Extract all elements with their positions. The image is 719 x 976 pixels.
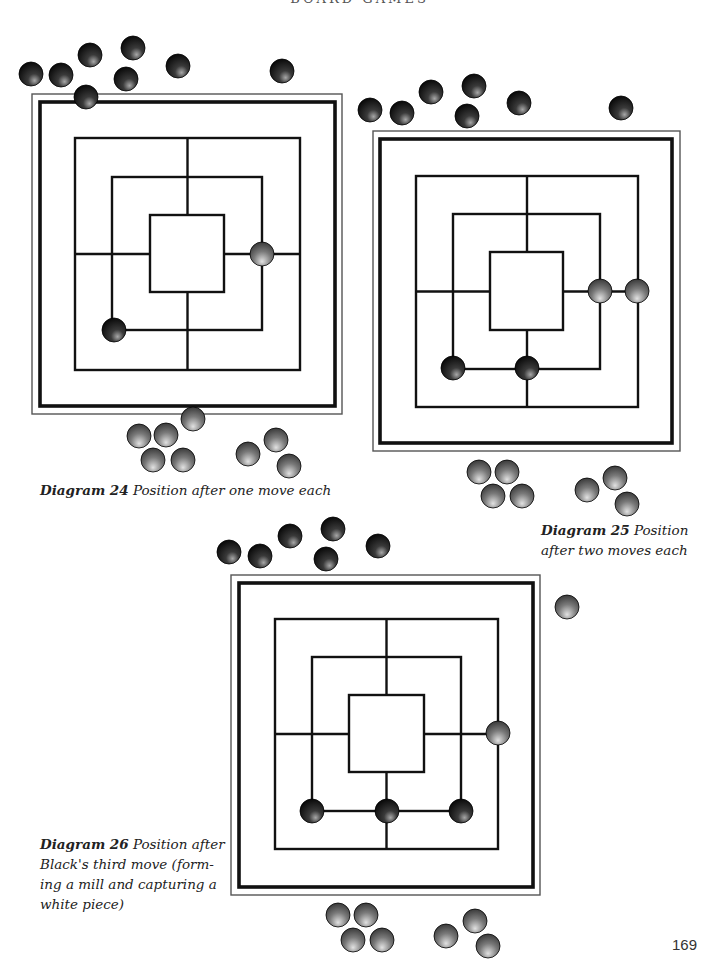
caption-text-line4: white piece) <box>40 894 225 914</box>
black-piece-reserve <box>321 517 345 541</box>
white-piece-reserve <box>467 460 491 484</box>
white-piece-reserve <box>495 460 519 484</box>
caption-label: Diagram 26 <box>40 836 129 852</box>
white-piece-reserve <box>354 903 378 927</box>
black-piece-reserve <box>270 59 294 83</box>
black-piece-reserve <box>166 54 190 78</box>
black-piece-reserve <box>217 540 241 564</box>
black-piece-reserve <box>507 91 531 115</box>
caption-diagram-25: Diagram 25 Position after two moves each <box>541 520 688 560</box>
black-piece-reserve <box>366 534 390 558</box>
white-piece-reserve <box>476 934 500 958</box>
black-piece-reserve <box>49 63 73 87</box>
caption-diagram-24: Diagram 24 Position after one move each <box>40 480 331 500</box>
diagram-24-board <box>32 94 342 414</box>
white-piece-reserve <box>236 442 260 466</box>
black-piece-reserve <box>455 104 479 128</box>
white-piece-reserve <box>127 424 151 448</box>
caption-label: Diagram 25 <box>541 522 630 538</box>
white-piece-reserve <box>181 407 205 431</box>
white-piece-reserve <box>341 928 365 952</box>
white-piece-reserve <box>510 484 534 508</box>
black-piece-reserve <box>314 547 338 571</box>
caption-text-line3: ing a mill and capturing a <box>40 874 225 894</box>
white-piece-reserve <box>463 909 487 933</box>
black-piece-reserve <box>114 67 138 91</box>
white-piece-reserve <box>603 466 627 490</box>
caption-text-line2: after two moves each <box>541 540 688 560</box>
caption-diagram-26: Diagram 26 Position after Black's third … <box>40 834 225 914</box>
white-piece-reserve <box>154 423 178 447</box>
black-piece-reserve <box>78 43 102 67</box>
white-piece-reserve <box>575 478 599 502</box>
caption-text: Position after <box>129 836 225 852</box>
white-piece-captured <box>555 595 579 619</box>
white-piece-reserve <box>326 903 350 927</box>
white-piece-on-board <box>625 279 649 303</box>
caption-text: Position after one move each <box>129 482 332 498</box>
caption-text-line2: Black's third move (form- <box>40 854 225 874</box>
white-piece-reserve <box>171 448 195 472</box>
black-piece-on-board <box>102 318 126 342</box>
white-piece-reserve <box>434 924 458 948</box>
white-piece-reserve <box>615 492 639 516</box>
black-piece-reserve <box>390 101 414 125</box>
black-piece-reserve <box>462 74 486 98</box>
black-piece-reserve <box>248 544 272 568</box>
white-piece-reserve <box>370 928 394 952</box>
white-piece-on-board <box>588 279 612 303</box>
black-piece-reserve <box>121 36 145 60</box>
page-number: 169 <box>672 936 697 953</box>
black-piece-on-board <box>515 356 539 380</box>
caption-label: Diagram 24 <box>40 482 129 498</box>
black-piece-reserve <box>278 524 302 548</box>
caption-text: Position <box>630 522 689 538</box>
white-piece-reserve <box>277 454 301 478</box>
black-piece-reserve <box>609 96 633 120</box>
black-piece-on-board <box>449 799 473 823</box>
black-piece-on-board <box>300 799 324 823</box>
black-piece-reserve <box>419 80 443 104</box>
white-piece-on-board <box>250 242 274 266</box>
white-piece-reserve <box>481 484 505 508</box>
black-piece-reserve <box>358 98 382 122</box>
white-piece-reserve <box>141 448 165 472</box>
white-piece-reserve <box>264 428 288 452</box>
black-piece-on-board <box>375 799 399 823</box>
white-piece-on-board <box>486 721 510 745</box>
black-piece-on-board <box>441 356 465 380</box>
black-piece-reserve <box>19 62 43 86</box>
black-piece-reserve <box>74 85 98 109</box>
